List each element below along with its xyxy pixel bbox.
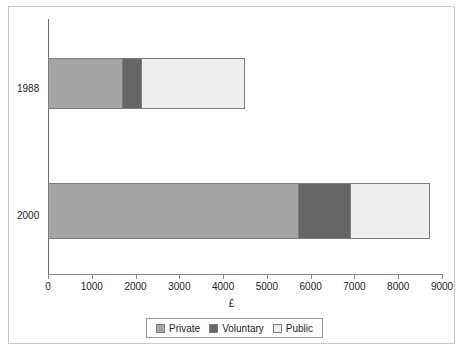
x-tick-label-0: 0 — [45, 281, 51, 292]
category-label-1988: 1988 — [17, 83, 39, 94]
legend-label: Public — [286, 323, 313, 334]
x-tick-6000 — [311, 274, 312, 279]
x-tick-label-6000: 6000 — [300, 281, 322, 292]
bar-segment-2000-public — [350, 183, 430, 239]
x-tick-8000 — [398, 274, 399, 279]
bar-segment-1988-voluntary — [122, 58, 141, 109]
x-tick-label-1000: 1000 — [81, 281, 103, 292]
legend-label: Private — [169, 323, 200, 334]
stacked-bar-2000 — [48, 183, 431, 239]
x-tick-0 — [48, 274, 49, 279]
x-tick-label-8000: 8000 — [387, 281, 409, 292]
x-tick-label-2000: 2000 — [124, 281, 146, 292]
x-tick-4000 — [223, 274, 224, 279]
legend-item-voluntary[interactable]: Voluntary — [209, 323, 264, 334]
chart-legend: PrivateVoluntaryPublic — [146, 318, 323, 338]
x-tick-label-9000: 9000 — [431, 281, 453, 292]
bar-segment-1988-public — [141, 58, 245, 109]
plot-area: 0100020003000400050006000700080009000 19… — [9, 7, 454, 343]
x-tick-9000 — [442, 274, 443, 279]
value-axis-line — [48, 274, 442, 275]
x-tick-label-3000: 3000 — [168, 281, 190, 292]
chart-figure: 0100020003000400050006000700080009000 19… — [8, 6, 455, 344]
legend-swatch-private-icon — [156, 324, 165, 333]
stacked-bar-1988 — [48, 58, 246, 109]
x-tick-label-5000: 5000 — [256, 281, 278, 292]
x-axis-title: £ — [9, 298, 454, 309]
x-tick-5000 — [267, 274, 268, 279]
legend-item-private[interactable]: Private — [156, 323, 200, 334]
x-tick-1000 — [92, 274, 93, 279]
x-tick-2000 — [136, 274, 137, 279]
legend-label: Voluntary — [222, 323, 264, 334]
x-tick-3000 — [179, 274, 180, 279]
bar-segment-2000-private — [48, 183, 299, 239]
legend-swatch-public-icon — [273, 324, 282, 333]
category-label-2000: 2000 — [17, 210, 39, 221]
legend-swatch-voluntary-icon — [209, 324, 218, 333]
x-tick-label-7000: 7000 — [343, 281, 365, 292]
x-tick-label-4000: 4000 — [212, 281, 234, 292]
legend-item-public[interactable]: Public — [273, 323, 313, 334]
bar-segment-2000-voluntary — [298, 183, 352, 239]
x-tick-7000 — [354, 274, 355, 279]
bar-segment-1988-private — [48, 58, 123, 109]
